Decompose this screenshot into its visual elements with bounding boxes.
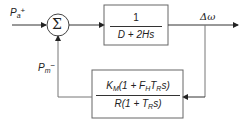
den-s: s) <box>153 98 161 109</box>
feedback-sign: − <box>51 61 56 70</box>
feedback-symbol: P <box>38 62 45 73</box>
fraction-bar <box>96 95 180 96</box>
sigma-symbol: Σ <box>52 16 62 32</box>
den-r-t: R(1 + T <box>114 98 148 109</box>
feedback-input-label: Pm− <box>38 62 55 74</box>
forward-numerator: 1 <box>131 12 141 24</box>
feedback-denominator: R(1 + TRs) <box>112 98 163 111</box>
feedback-transfer-function: KM(1 + FHTRs) R(1 + TRs) <box>96 80 180 111</box>
forward-denominator: D + 2Hs <box>116 29 156 41</box>
input-sign: + <box>21 6 26 15</box>
fraction-bar <box>110 26 162 27</box>
feedback-numerator: KM(1 + FHTRs) <box>104 80 172 93</box>
num-k: K <box>106 80 113 91</box>
input-label: Pa+ <box>10 7 25 19</box>
num-s: s) <box>161 80 169 91</box>
output-label: Δω <box>200 11 215 22</box>
forward-transfer-function: 1 D + 2Hs <box>110 12 162 41</box>
input-symbol: P <box>10 7 17 18</box>
num-f: (1 + F <box>119 80 145 91</box>
